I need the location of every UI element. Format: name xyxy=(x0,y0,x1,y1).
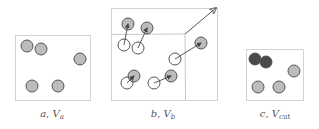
particle xyxy=(74,53,86,65)
diagram-canvas: a, Va b, Vb c, Vcut xyxy=(0,0,319,129)
particle xyxy=(35,43,47,55)
panel-c-cut-volume xyxy=(247,50,304,101)
label-panel-a: a, Va xyxy=(40,108,64,121)
label-panel-b: b, Vb xyxy=(151,108,176,121)
cut-particle xyxy=(260,56,272,68)
label-panel-c: c, Vcut xyxy=(260,108,291,121)
panel-a-volume xyxy=(16,36,91,101)
panel-b-expanded-volume xyxy=(111,8,218,101)
expansion-arrow-icon xyxy=(185,8,216,34)
particle xyxy=(21,40,33,52)
particle xyxy=(288,65,300,77)
particle xyxy=(26,80,38,92)
particle xyxy=(273,81,285,93)
particle xyxy=(52,80,64,92)
original-volume-boundary xyxy=(185,35,186,101)
displacement-arrow-icon xyxy=(175,43,201,59)
cut-particle xyxy=(249,53,261,65)
particle xyxy=(252,81,264,93)
